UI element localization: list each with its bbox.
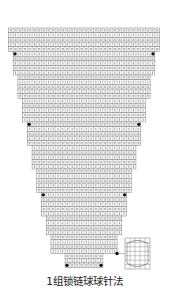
chart-row xyxy=(13,61,155,66)
chart-row xyxy=(27,131,140,136)
chart-row xyxy=(27,122,140,127)
chart-row xyxy=(46,216,122,221)
marker-dot-right xyxy=(137,123,140,126)
legend-marker-icon xyxy=(115,252,119,256)
marker-dot-left xyxy=(13,52,16,55)
marker-dot-left xyxy=(27,123,30,126)
chart-row xyxy=(18,94,150,99)
marker-dot-left xyxy=(42,193,45,196)
marker-dot-left xyxy=(65,264,68,267)
chart-row xyxy=(8,42,159,47)
chart-row xyxy=(42,193,127,198)
marker-dot-right xyxy=(151,52,154,55)
chart-row xyxy=(32,146,136,151)
chart-row xyxy=(37,188,131,193)
chart-row xyxy=(37,174,131,179)
chart-row xyxy=(37,169,131,174)
chart-row xyxy=(8,33,159,38)
chart-row xyxy=(23,103,146,108)
chart-row xyxy=(13,66,155,71)
chart-row xyxy=(46,230,122,235)
chart-row xyxy=(8,28,159,33)
chart-row xyxy=(23,99,146,104)
chart-row xyxy=(51,244,117,249)
chart-row xyxy=(27,141,140,146)
chart-row xyxy=(13,70,155,75)
legend xyxy=(115,238,150,269)
chart-row xyxy=(13,52,155,57)
chart-row xyxy=(42,207,127,212)
chart-row xyxy=(42,202,127,207)
chart-row xyxy=(32,150,136,155)
chart-row xyxy=(18,89,150,94)
chart-row xyxy=(18,75,150,80)
marker-dot-right xyxy=(123,193,126,196)
chart-row xyxy=(32,164,136,169)
chart-caption: 1组锁链球球针法 xyxy=(0,273,169,288)
chart-row xyxy=(23,108,146,113)
chart-row xyxy=(37,183,131,188)
chart-row xyxy=(8,47,159,52)
chart-row xyxy=(65,254,103,259)
chart-row xyxy=(18,84,150,89)
chart-row xyxy=(46,225,122,230)
stitch-grid xyxy=(8,28,159,268)
chart-row xyxy=(51,235,117,240)
chart-row xyxy=(32,160,136,165)
crochet-chart xyxy=(0,0,169,292)
chart-row xyxy=(65,263,103,268)
chart-row xyxy=(27,136,140,141)
chart-row xyxy=(27,127,140,132)
chart-row xyxy=(13,56,155,61)
chart-row xyxy=(42,211,127,216)
chart-row xyxy=(23,113,146,118)
chart-row xyxy=(23,117,146,122)
chart-row xyxy=(46,221,122,226)
marker-dot-right xyxy=(99,264,102,267)
chart-row xyxy=(51,240,117,245)
chart-row xyxy=(18,80,150,85)
chart-row xyxy=(37,178,131,183)
chart-row xyxy=(51,249,117,254)
chart-row xyxy=(42,197,127,202)
chart-row xyxy=(32,155,136,160)
chart-row xyxy=(8,37,159,42)
chart-row xyxy=(65,258,103,263)
